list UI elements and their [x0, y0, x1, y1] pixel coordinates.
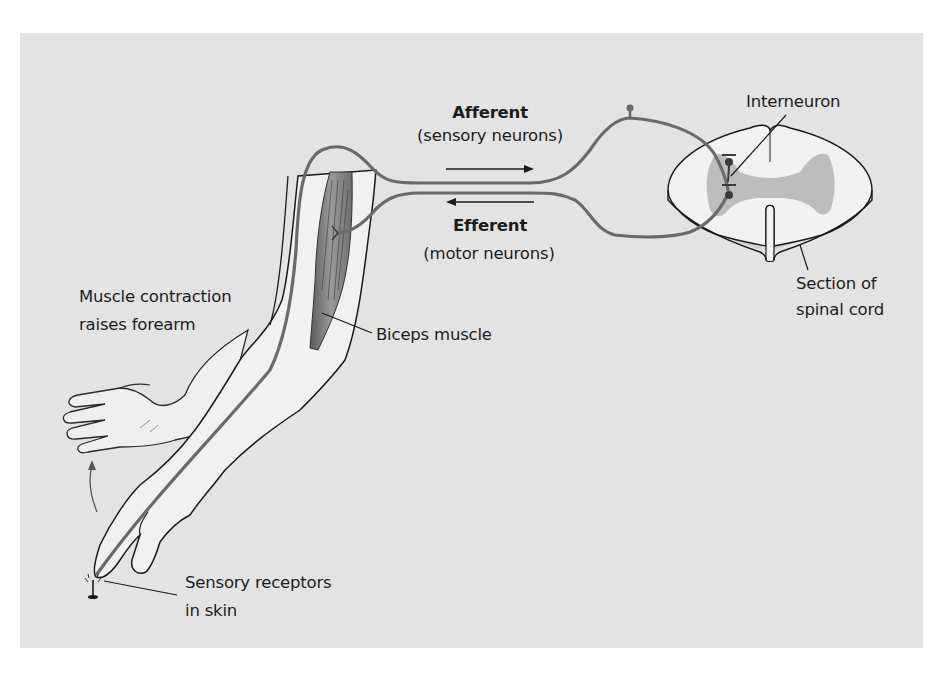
spinal-cord-label-line1: Section of	[796, 272, 876, 296]
muscle-contraction-label-line2: raises forearm	[79, 313, 195, 337]
afferent-arrow-icon	[446, 165, 534, 173]
biceps-label: Biceps muscle	[376, 323, 492, 347]
spinal-cord-section	[668, 125, 872, 261]
spinal-cord-leader-line	[800, 245, 808, 270]
spinal-cord-label-line2: spinal cord	[796, 298, 884, 322]
sensory-receptors-label-line1: Sensory receptors	[185, 571, 331, 595]
muscle-contraction-label-line1: Muscle contraction	[79, 285, 231, 309]
receptor-leader-line	[104, 581, 177, 595]
interneuron-label: Interneuron	[746, 90, 840, 114]
afferent-subtitle-label: (sensory neurons)	[402, 124, 578, 148]
hand-motion-arrow-icon	[88, 460, 97, 512]
efferent-title-label: Efferent	[430, 214, 550, 238]
efferent-arrow-icon	[446, 198, 534, 206]
efferent-subtitle-label: (motor neurons)	[405, 242, 573, 266]
afferent-title-label: Afferent	[430, 101, 550, 125]
sensory-receptors-label-line2: in skin	[185, 599, 237, 623]
dorsal-ganglion-icon	[627, 105, 634, 112]
